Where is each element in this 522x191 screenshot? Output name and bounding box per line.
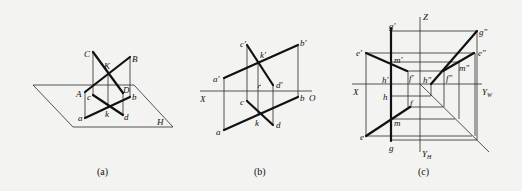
projection-figure: C B K A D c b a k d H (a) c′ b′ k′ a′ d′ [0,0,522,191]
label-f-prime: f′ [409,73,415,83]
label-a-prime: a′ [213,74,221,84]
label-H: H [156,117,164,127]
label-g: g [389,143,394,153]
label-C: C [84,49,91,59]
label-K: K [103,61,111,71]
label-X: X [199,94,206,104]
caption-a: (a) [97,166,108,178]
line-h-dprime-g-dprime [431,31,477,84]
panel-c: Z g′ g″ e′ e″ m′ m″ h′ h″ f′ f″ X YW h f… [352,12,493,178]
label-g-dprime: g″ [479,27,488,37]
label-f: f [410,98,414,108]
label-B: B [132,54,138,64]
label-d-prime: d′ [276,80,284,90]
label-e-prime: e′ [356,48,363,58]
label-k: k [255,118,260,128]
label-b-prime: b′ [300,38,308,48]
label-g-prime: g′ [389,21,397,31]
label-h-dprime: h″ [423,75,432,85]
label-Y-W: YW [482,87,493,98]
h-plane [33,85,173,127]
label-k: k [105,109,110,119]
panel-b: c′ b′ k′ a′ d′ X O c b a k d (b) [199,38,316,178]
caption-b: (b) [254,166,266,178]
label-Z: Z [423,12,429,22]
label-f-dprime: f″ [446,73,453,83]
line-cd [247,101,273,125]
label-h: h [383,92,388,102]
panel-a: C B K A D c b a k d H (a) [33,49,173,178]
label-A: A [75,89,82,99]
label-b: b [300,93,305,103]
perpendicular-mark [258,85,261,88]
label-c: c [87,92,91,102]
label-m: m [394,118,401,128]
label-m-prime: m′ [394,55,403,65]
label-D: D [122,85,130,95]
label-b: b [132,92,137,102]
label-e: e [360,132,364,142]
label-c: c [240,97,244,107]
label-d: d [276,120,281,130]
diagonal-45 [420,84,489,152]
label-O: O [309,93,316,103]
label-k-prime: k′ [260,50,267,60]
label-a: a [78,113,83,123]
figure-canvas: C B K A D c b a k d H (a) c′ b′ k′ a′ d′ [0,0,522,191]
caption-c: (c) [418,166,429,178]
label-c-prime: c′ [240,39,247,49]
label-Y-H: YH [422,149,432,160]
line-ef [366,107,410,136]
label-X: X [352,87,359,97]
label-h-prime: h′ [382,75,390,85]
label-e-dprime: e″ [478,48,486,58]
label-d: d [124,112,129,122]
label-a: a [216,127,221,137]
label-m-dprime: m″ [459,63,469,73]
